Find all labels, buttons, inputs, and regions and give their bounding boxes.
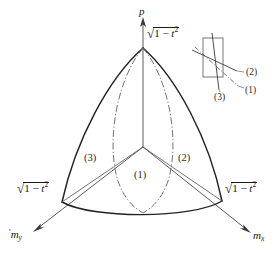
- my-axis-subscript: y: [19, 233, 22, 242]
- left-radicand-exp: 2: [44, 180, 48, 189]
- region-label-3: (3): [84, 153, 96, 164]
- inset-line-3: [212, 33, 219, 90]
- inset-leader-1: [238, 86, 244, 88]
- dashdot-arc-right: [143, 48, 173, 213]
- left-vertex-radical-label: √1 − t2: [17, 182, 49, 195]
- inset-label-3: (3): [214, 93, 225, 103]
- inset-leader-2: [237, 71, 244, 72]
- inset-label-1: (1): [245, 86, 256, 96]
- figure-root: p 'my mx √1 − t2 √1 − t2 √1 − t2 (3) (2)…: [0, 0, 280, 254]
- left-radicand-lead: 1 −: [24, 182, 41, 194]
- right-radicand-lead: 1 −: [232, 182, 249, 194]
- right-vertex-radical-label: √1 − t2: [225, 182, 257, 195]
- mx-axis-base: m: [253, 229, 261, 241]
- mx-axis-subscript: x: [261, 234, 264, 243]
- region-label-1: (1): [134, 170, 146, 181]
- right-radicand-exp: 2: [252, 180, 256, 189]
- boundary-left-edge: [62, 48, 143, 202]
- my-axis-label: 'my: [9, 228, 22, 242]
- apex-radical-body: 1 − t2: [153, 27, 179, 39]
- my-axis-base: m: [11, 228, 19, 240]
- right-radical-body: 1 − t2: [231, 182, 257, 194]
- left-radical-body: 1 − t2: [23, 182, 49, 194]
- mx-axis-label: mx: [253, 230, 264, 243]
- inset-group: [192, 33, 244, 92]
- figure-canvas: [0, 0, 280, 254]
- apex-radicand-lead: 1 −: [154, 27, 171, 39]
- octant-boundary: [62, 48, 222, 215]
- interior-edge-left: [62, 147, 143, 202]
- inset-label-2: (2): [246, 68, 257, 78]
- apex-radicand-exp: 2: [174, 25, 178, 34]
- region-label-2: (2): [178, 153, 190, 164]
- apex-radical-label: √1 − t2: [147, 27, 179, 40]
- dashdot-arc-left: [113, 48, 143, 213]
- p-axis-label: p: [139, 6, 145, 17]
